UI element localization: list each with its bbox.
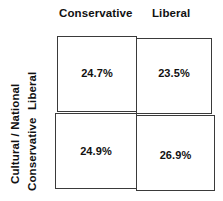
cell-value-liberal-liberal: 23.5% bbox=[137, 67, 211, 79]
y-axis-title: Cultural / National bbox=[9, 84, 22, 184]
column-header-conservative: Conservative bbox=[59, 7, 132, 20]
column-header-liberal: Liberal bbox=[152, 7, 190, 20]
mosaic-cell-liberal-liberal: 23.5% bbox=[136, 38, 212, 114]
cell-value-conservative-liberal: 24.7% bbox=[58, 67, 136, 79]
mosaic-cell-conservative-conservative: 24.9% bbox=[55, 113, 137, 189]
mosaic-plot: Conservative Liberal Cultural / National… bbox=[0, 0, 223, 201]
mosaic-cell-conservative-liberal: 24.7% bbox=[57, 36, 137, 112]
cell-value-liberal-conservative: 26.9% bbox=[137, 149, 214, 161]
cell-value-conservative-conservative: 24.9% bbox=[56, 145, 136, 157]
mosaic-cell-liberal-conservative: 26.9% bbox=[136, 115, 215, 191]
row-label-liberal: Liberal bbox=[26, 72, 39, 110]
row-label-conservative: Conservative bbox=[26, 118, 39, 191]
